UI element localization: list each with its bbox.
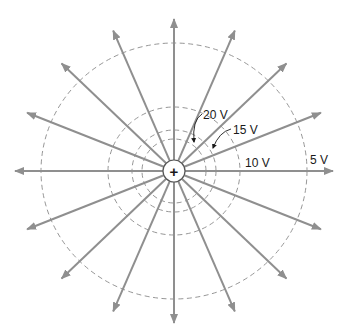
field-line-arrow-icon <box>178 31 235 161</box>
field-line-arrow-icon <box>62 179 167 279</box>
field-line-arrow-icon <box>178 181 235 311</box>
plus-icon: + <box>170 163 179 180</box>
field-line-arrow-icon <box>184 175 321 229</box>
field-line-arrow-icon <box>27 175 164 229</box>
label-10v: 10 V <box>245 156 270 170</box>
field-diagram: + 20 V 15 V 10 V 5 V <box>0 0 349 333</box>
point-charge: + <box>163 160 185 182</box>
field-line-arrow-icon <box>113 181 170 311</box>
field-line-arrow-icon <box>182 64 287 164</box>
label-5v: 5 V <box>310 153 328 167</box>
field-line-arrow-icon <box>113 31 170 161</box>
pointer-20v-icon <box>194 114 202 142</box>
field-line-arrow-icon <box>182 179 287 279</box>
field-line-arrow-icon <box>27 113 164 167</box>
label-15v: 15 V <box>233 123 258 137</box>
field-line-arrow-icon <box>62 64 167 164</box>
label-20v: 20 V <box>203 108 228 122</box>
